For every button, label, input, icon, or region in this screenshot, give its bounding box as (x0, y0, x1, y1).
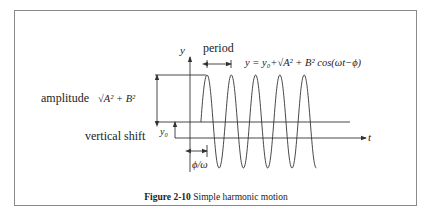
phase-label: ϕ/ω (192, 159, 208, 170)
amplitude-label: amplitude (41, 91, 89, 105)
equation-label: y = y₀+√A² + B² cos(ωt−ϕ) (244, 57, 362, 69)
figure-caption: Figure 2-10 Simple harmonic motion (0, 192, 432, 202)
cosine-wave (201, 75, 316, 168)
amplitude-expression: √A² + B² (98, 93, 136, 104)
figure-title: Simple harmonic motion (193, 192, 287, 202)
vertical-shift-label: vertical shift (85, 129, 146, 143)
figure-number: Figure 2-10 (144, 192, 191, 202)
harmonic-motion-diagram: y t period y = y₀+√A² + B² cos(ωt−ϕ) amp… (0, 0, 432, 221)
t-axis-label: t (368, 131, 372, 143)
y-axis-label: y (179, 44, 185, 56)
y0-label: y₀ (159, 126, 168, 137)
period-label: period (203, 41, 234, 55)
